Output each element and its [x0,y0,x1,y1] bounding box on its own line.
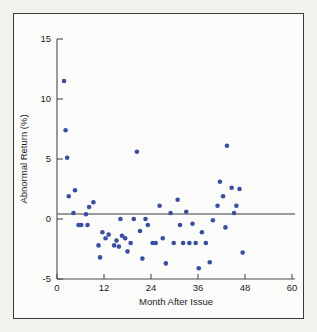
data-point [112,243,117,248]
data-point [85,223,90,228]
y-tick-label: -5 [43,273,51,284]
data-point [123,236,128,241]
data-point [221,194,226,199]
data-point [160,236,165,241]
data-point [114,238,119,243]
data-point [181,241,186,246]
y-tick-label: 0 [46,213,51,224]
data-point [218,180,223,185]
y-axis-ticks: -5051015 [40,33,63,284]
data-point [117,244,122,249]
scatter-plot: -5051015 01224364860 Month After Issue A… [0,0,317,332]
data-point [84,212,89,217]
data-point [71,211,76,216]
data-point [164,261,169,266]
data-point [118,217,123,222]
data-points-group [62,79,245,271]
data-point [143,217,148,222]
y-tick-label: 5 [46,153,51,164]
data-point [79,223,84,228]
data-point [193,241,198,246]
data-point [98,255,103,260]
y-tick-label: 15 [40,33,51,44]
data-point [138,229,143,234]
data-point [153,241,158,246]
data-point [229,186,234,191]
data-point [184,210,189,215]
data-point [200,230,205,235]
data-point [87,205,92,210]
data-point [204,241,209,246]
x-axis-title: Month After Issue [139,296,213,307]
data-point [62,79,67,84]
data-point [215,204,220,209]
data-point [207,260,212,265]
data-point [73,188,78,193]
data-point [225,144,230,149]
data-point [178,223,183,228]
data-point [196,266,201,271]
data-point [66,194,71,199]
y-axis-title: Abnormal Return (%) [18,114,29,203]
data-point [103,236,108,241]
data-point [128,241,133,246]
data-point [135,150,140,155]
data-point [91,200,96,205]
data-point [96,243,101,248]
figure-container: -5051015 01224364860 Month After Issue A… [0,0,317,332]
x-tick-label: 60 [287,282,298,293]
data-point [100,230,105,235]
y-tick-label: 10 [40,93,51,104]
data-point [175,198,180,203]
data-point [240,250,245,255]
data-point [157,204,162,209]
data-point [237,187,242,192]
x-axis-ticks: 01224364860 [54,274,297,293]
data-point [140,256,145,261]
data-point [232,211,237,216]
data-point [65,156,70,161]
data-point [168,211,173,216]
data-point [106,232,111,237]
data-point [131,217,136,222]
x-tick-label: 24 [146,282,157,293]
data-point [146,223,151,228]
data-point [125,249,130,254]
data-point [63,128,68,133]
x-tick-label: 0 [54,282,59,293]
data-point [190,222,195,227]
data-point [171,241,176,246]
data-point [223,225,228,230]
x-tick-label: 36 [193,282,204,293]
data-point [187,241,192,246]
data-point [211,218,216,223]
x-tick-label: 12 [99,282,110,293]
x-tick-label: 48 [240,282,251,293]
data-point [234,204,239,209]
